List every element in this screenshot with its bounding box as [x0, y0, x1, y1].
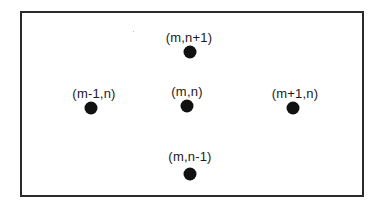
- point-label-center: (m,n): [171, 84, 202, 99]
- point-label-south: (m,n-1): [168, 149, 211, 164]
- point-label-north: (m,n+1): [166, 30, 213, 45]
- scan-artifact: [133, 31, 134, 32]
- grid-point-dot-east: [287, 102, 300, 115]
- grid-point-dot-west: [85, 102, 98, 115]
- grid-point-dot-south: [184, 168, 197, 181]
- grid-point-dot-north: [184, 46, 197, 59]
- point-label-west: (m-1,n): [72, 86, 115, 101]
- grid-point-dot-center: [181, 100, 194, 113]
- point-label-east: (m+1,n): [272, 86, 319, 101]
